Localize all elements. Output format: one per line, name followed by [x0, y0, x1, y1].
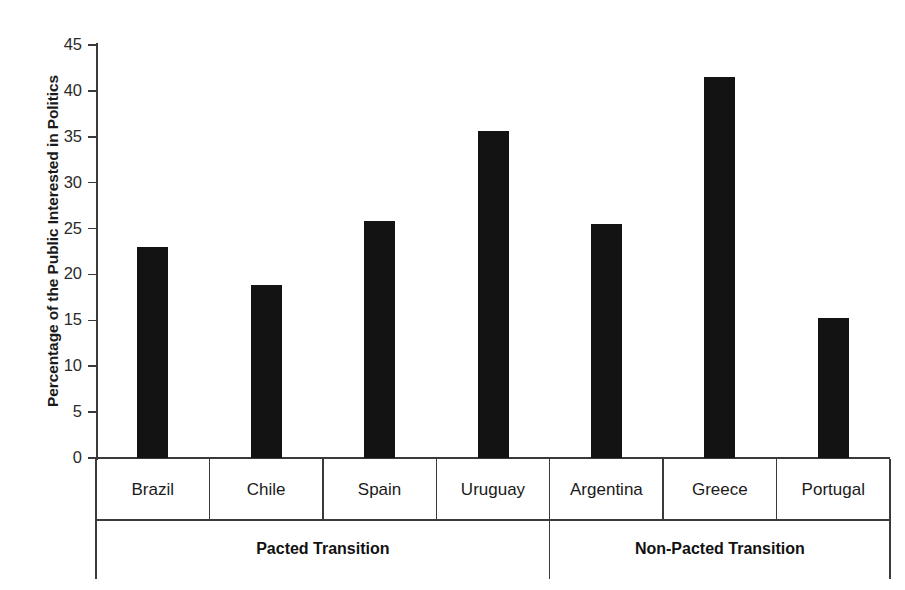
y-tick-label-text: 0 — [73, 449, 82, 466]
bar — [704, 77, 735, 458]
y-tick-label-text: 15 — [64, 311, 82, 328]
group-separator-line — [95, 459, 97, 579]
bar-chart-figure: Percentage of the Public Interested in P… — [0, 0, 905, 590]
bar — [137, 247, 168, 458]
y-tick-label-text: 10 — [64, 357, 82, 374]
group-label-row: Pacted TransitionNon-Pacted Transition — [96, 520, 890, 578]
y-tick-label: 10 — [38, 366, 82, 367]
y-tick-label-text: 40 — [64, 82, 82, 99]
y-tick-mark — [88, 182, 97, 184]
y-tick-label-text: 45 — [64, 36, 82, 53]
group-label: Pacted Transition — [96, 520, 550, 578]
y-tick-mark — [88, 365, 97, 367]
y-tick-mark — [88, 90, 97, 92]
category-label: Spain — [323, 459, 436, 520]
y-tick-label: 20 — [38, 274, 82, 275]
y-tick-label-text: 30 — [64, 174, 82, 191]
category-label: Brazil — [96, 459, 209, 520]
y-tick-label: 35 — [38, 137, 82, 138]
y-tick-label: 25 — [38, 229, 82, 230]
y-axis-title: Percentage of the Public Interested in P… — [44, 6, 62, 476]
y-tick-label-text: 35 — [64, 128, 82, 145]
y-tick-mark — [88, 44, 97, 46]
bar — [591, 224, 622, 458]
bar — [818, 318, 849, 458]
category-label: Uruguay — [436, 459, 549, 520]
y-tick-label: 40 — [38, 91, 82, 92]
category-separator-line — [436, 459, 438, 520]
y-tick-label: 30 — [38, 183, 82, 184]
bar — [364, 221, 395, 458]
y-tick-mark — [88, 320, 97, 322]
category-label: Chile — [209, 459, 322, 520]
y-tick-label-text: 20 — [64, 265, 82, 282]
category-label: Portugal — [777, 459, 890, 520]
plot-area — [97, 45, 890, 458]
y-tick-mark — [88, 274, 97, 276]
group-separator-line — [549, 459, 551, 579]
y-tick-label-text: 5 — [73, 403, 82, 420]
category-separator-line — [209, 459, 211, 520]
bar — [478, 131, 509, 458]
group-label: Non-Pacted Transition — [550, 520, 890, 578]
y-tick-label: 0 — [38, 458, 82, 459]
category-separator-line — [776, 459, 778, 520]
y-tick-label-text: 25 — [64, 220, 82, 237]
y-tick-label: 5 — [38, 412, 82, 413]
y-tick-label: 15 — [38, 320, 82, 321]
category-label: Argentina — [550, 459, 663, 520]
category-label: Greece — [663, 459, 776, 520]
y-tick-mark — [88, 228, 97, 230]
y-tick-mark — [88, 411, 97, 413]
y-tick-mark — [88, 136, 97, 138]
category-separator-line — [322, 459, 324, 520]
group-separator-line — [889, 459, 891, 579]
category-label-row: BrazilChileSpainUruguayArgentinaGreecePo… — [96, 459, 890, 520]
category-separator-line — [662, 459, 664, 520]
bar — [251, 285, 282, 458]
y-tick-label: 45 — [38, 45, 82, 46]
